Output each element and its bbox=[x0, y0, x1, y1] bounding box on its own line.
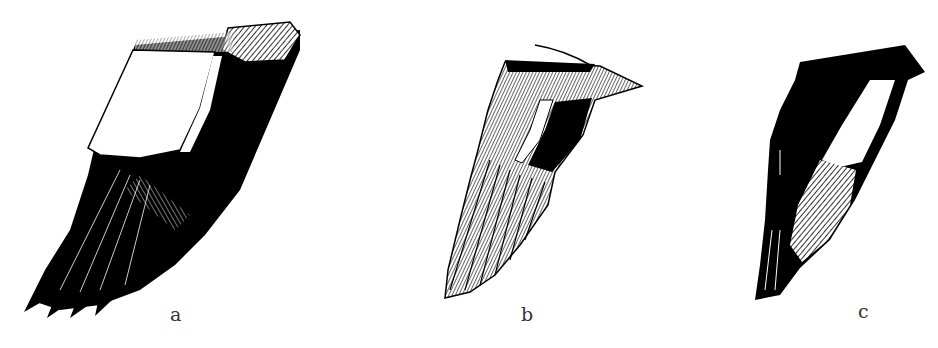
panel-label-c: c bbox=[858, 300, 869, 322]
wing-b bbox=[445, 45, 642, 298]
wing-a bbox=[24, 22, 300, 318]
wing-c bbox=[755, 45, 925, 300]
panel-label-b: b bbox=[521, 303, 533, 325]
wings-figure bbox=[0, 0, 938, 348]
panel-label-a: a bbox=[170, 303, 181, 325]
